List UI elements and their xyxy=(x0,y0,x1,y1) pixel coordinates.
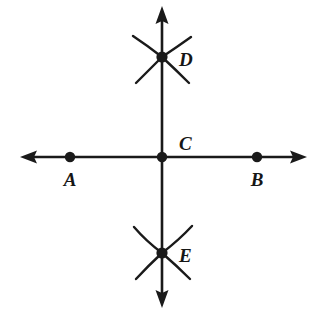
geometry-figure: A B C D E xyxy=(0,0,316,315)
point-label-A: A xyxy=(63,169,77,190)
point-dot-D xyxy=(156,51,167,62)
point-label-C: C xyxy=(179,133,192,154)
point-dot-C xyxy=(157,152,167,162)
point-dot-B xyxy=(252,152,262,162)
point-label-D: D xyxy=(178,49,193,70)
geometry-canvas: A B C D E xyxy=(0,0,316,315)
point-dot-E xyxy=(156,247,167,258)
point-dot-A xyxy=(65,152,75,162)
point-label-E: E xyxy=(178,245,192,266)
point-label-B: B xyxy=(250,169,264,190)
arc-E-upper-left xyxy=(134,227,162,253)
point-dots-group xyxy=(65,51,262,258)
